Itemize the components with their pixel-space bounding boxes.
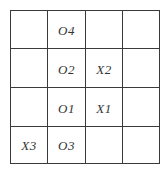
cell-r1-c0	[11, 49, 48, 88]
cell-r3-c3	[123, 127, 159, 163]
cell-r0-c0	[11, 11, 48, 49]
cell-r0-c3	[123, 11, 159, 49]
cell-r3-c1: O3	[48, 127, 86, 163]
cell-r3-c2	[86, 127, 123, 163]
cell-r2-c2: X1	[86, 88, 123, 127]
cell-r3-c0: X3	[11, 127, 48, 163]
cell-r0-c2	[86, 11, 123, 49]
cell-r2-c3	[123, 88, 159, 127]
cell-r2-c0	[11, 88, 48, 127]
cell-r2-c1: O1	[48, 88, 86, 127]
cell-r1-c3	[123, 49, 159, 88]
cell-r1-c1: O2	[48, 49, 86, 88]
cell-r0-c1: O4	[48, 11, 86, 49]
cell-r1-c2: X2	[86, 49, 123, 88]
grid-diagram: O4 O2 X2 O1 X1 X3 O3	[10, 10, 160, 164]
